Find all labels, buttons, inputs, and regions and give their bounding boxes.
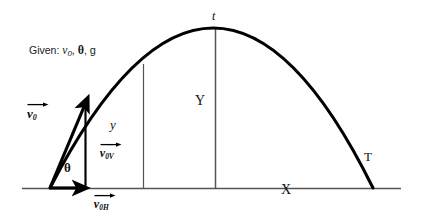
vector-label-v0v: v0V <box>100 147 114 161</box>
vector-label-v0v-subscript: 0V <box>105 152 114 161</box>
vector-label-v0h: v0H <box>94 198 109 212</box>
given-annotation: Given: v0, θ, g <box>29 44 96 58</box>
total-time-label-T: T <box>364 150 372 163</box>
vector-v0-arrow <box>50 102 86 188</box>
projectile-motion-figure: Given: v0, θ, g v0 v0V v0H θ y t Y X T <box>0 0 424 224</box>
diagram-canvas <box>0 0 424 224</box>
given-prefix: Given: <box>29 44 59 56</box>
vector-label-v0-subscript: 0 <box>33 113 37 122</box>
time-label-t: t <box>212 10 215 22</box>
given-g-symbol: g <box>90 44 96 56</box>
vector-label-v0h-subscript: 0H <box>99 203 109 212</box>
vector-label-v0: v0 <box>27 107 37 122</box>
angle-label-theta: θ <box>64 161 71 174</box>
range-label-X: X <box>281 183 291 197</box>
height-label-y: y <box>110 118 116 131</box>
max-height-label-Y: Y <box>195 94 205 108</box>
trajectory-curve <box>50 28 373 188</box>
